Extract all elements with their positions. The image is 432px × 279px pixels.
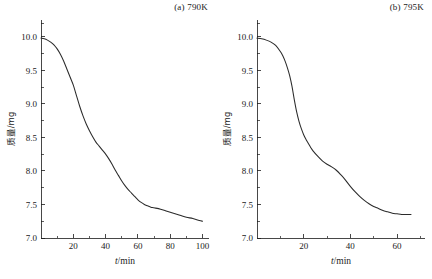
y-tick-label: 9.5 bbox=[26, 66, 38, 76]
x-axis-title: t/min bbox=[115, 256, 135, 266]
axis-lines bbox=[41, 20, 209, 238]
x-tick-label: 60 bbox=[133, 241, 143, 251]
panel-a-plot: 7.07.58.08.59.09.510.020406080100t/min质量… bbox=[0, 0, 216, 279]
x-tick-label: 60 bbox=[393, 241, 403, 251]
axis-lines bbox=[257, 20, 425, 238]
x-tick-label: 100 bbox=[196, 241, 210, 251]
panel-a: (a) 790K 7.07.58.08.59.09.510.0204060801… bbox=[0, 0, 216, 279]
panel-b-plot: 7.07.58.08.59.09.510.0204060t/min质量/mg bbox=[216, 0, 432, 279]
y-tick-label: 7.5 bbox=[242, 200, 254, 210]
x-tick-label: 20 bbox=[299, 241, 309, 251]
y-tick-label: 9.0 bbox=[26, 99, 38, 109]
y-tick-label: 9.0 bbox=[242, 99, 254, 109]
y-tick-label: 9.5 bbox=[242, 66, 254, 76]
x-tick-label: 40 bbox=[346, 241, 356, 251]
y-axis-title: 质量/mg bbox=[222, 112, 232, 147]
x-tick-label: 80 bbox=[166, 241, 176, 251]
data-curve bbox=[257, 38, 411, 214]
data-curve bbox=[41, 38, 203, 221]
x-tick-label: 20 bbox=[69, 241, 79, 251]
y-tick-label: 10.0 bbox=[21, 32, 37, 42]
y-tick-label: 8.0 bbox=[242, 166, 254, 176]
y-tick-label: 8.5 bbox=[242, 133, 254, 143]
y-axis-title: 质量/mg bbox=[6, 112, 16, 147]
y-tick-label: 8.5 bbox=[26, 133, 38, 143]
y-tick-label: 7.0 bbox=[242, 233, 254, 243]
figure-tga-mass-loss: (a) 790K 7.07.58.08.59.09.510.0204060801… bbox=[0, 0, 432, 279]
x-axis-title: t/min bbox=[331, 256, 351, 266]
y-tick-label: 7.0 bbox=[26, 233, 38, 243]
y-tick-label: 7.5 bbox=[26, 200, 38, 210]
panel-b: (b) 795K 7.07.58.08.59.09.510.0204060t/m… bbox=[216, 0, 432, 279]
y-tick-label: 10.0 bbox=[237, 32, 253, 42]
y-tick-label: 8.0 bbox=[26, 166, 38, 176]
x-tick-label: 40 bbox=[101, 241, 111, 251]
